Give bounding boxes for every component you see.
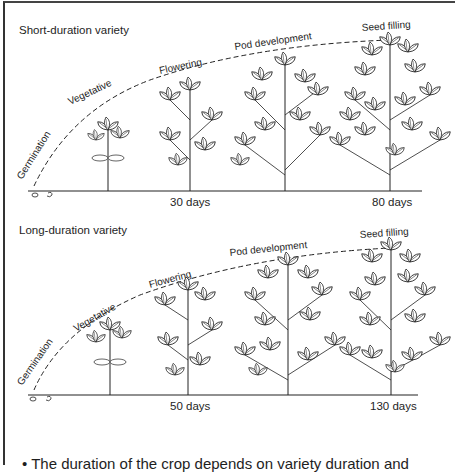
plant-flowering-short	[158, 77, 224, 191]
plant-vegetative-short	[86, 117, 130, 191]
plant-seed-short	[328, 32, 452, 191]
day-label-50: 50 days	[170, 400, 210, 412]
seedling-icon	[47, 192, 52, 196]
plant-pod-long	[233, 252, 347, 395]
seed-icon	[30, 397, 36, 401]
stage-pod-development: Pod development	[234, 30, 313, 52]
plant-vegetative-long	[85, 317, 133, 395]
stage-pod-development: Pod development	[229, 239, 308, 258]
plant-pod-short	[229, 52, 332, 191]
day-label-30: 30 days	[170, 196, 210, 208]
stage-seed-filling: Seed filling	[359, 226, 409, 240]
short-duration-diagram: Germination Vegetative Flowering Pod dev…	[14, 19, 452, 197]
stage-germination: Germination	[14, 129, 52, 181]
plant-flowering-long	[153, 277, 224, 395]
caption-text: • The duration of the crop depends on va…	[22, 455, 409, 472]
day-label-130: 130 days	[370, 400, 417, 412]
seedling-icon	[46, 396, 51, 400]
plant-seed-long	[338, 237, 452, 395]
stage-seed-filling: Seed filling	[361, 19, 411, 33]
day-label-80: 80 days	[372, 196, 412, 208]
stage-flowering: Flowering	[158, 56, 203, 76]
seed-icon	[32, 193, 38, 197]
long-duration-diagram: Germination Vegetative Flowering Pod dev…	[15, 226, 452, 401]
stage-germination: Germination	[15, 336, 55, 387]
